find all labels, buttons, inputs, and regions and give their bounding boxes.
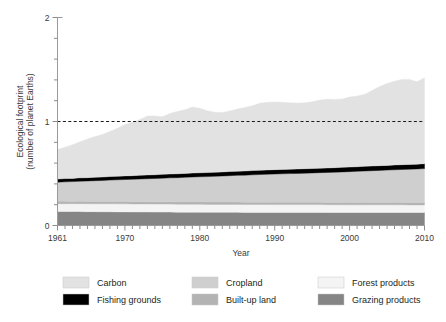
x-tick-label: 1970 bbox=[115, 233, 134, 243]
legend-label: Built-up land bbox=[226, 295, 276, 305]
x-tick-label: 1980 bbox=[190, 233, 209, 243]
area-grazing-products bbox=[58, 211, 425, 225]
x-axis-title: Year bbox=[232, 248, 249, 258]
y-tick-label: 0 bbox=[45, 221, 50, 231]
legend-label: Grazing products bbox=[352, 295, 421, 305]
y-axis-title-line1: Ecological footprint bbox=[15, 85, 25, 157]
legend-label: Cropland bbox=[226, 278, 263, 288]
swatch-fishing-grounds bbox=[63, 294, 89, 305]
legend-label: Carbon bbox=[97, 278, 127, 288]
swatch-grazing-products bbox=[318, 294, 344, 305]
x-tick-label: 1961 bbox=[48, 233, 67, 243]
ecological-footprint-chart: 012196119701980199020002010YearEcologica… bbox=[0, 0, 446, 322]
swatch-built-up-land bbox=[192, 294, 218, 305]
swatch-cropland bbox=[192, 277, 218, 288]
y-tick-label: 1 bbox=[45, 117, 50, 127]
swatch-forest-products bbox=[318, 277, 344, 288]
x-tick-label: 2000 bbox=[340, 233, 359, 243]
legend-label: Fishing grounds bbox=[97, 295, 162, 305]
y-axis-title-line2: (number of planet Earths) bbox=[25, 73, 35, 170]
y-tick-label: 2 bbox=[45, 13, 50, 23]
swatch-carbon bbox=[63, 277, 89, 288]
legend-label: Forest products bbox=[352, 278, 415, 288]
x-tick-label: 2010 bbox=[415, 233, 434, 243]
x-tick-label: 1990 bbox=[265, 233, 284, 243]
